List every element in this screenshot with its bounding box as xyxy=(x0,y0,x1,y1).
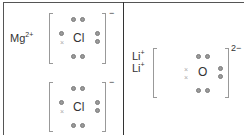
electron-dot xyxy=(80,54,85,59)
electron-dot xyxy=(71,17,76,22)
right-panel-li2o: Li+ Li+ 2− O × × xyxy=(124,3,244,135)
electron-dot xyxy=(95,100,100,105)
electron-dot xyxy=(59,31,64,36)
electron-dot xyxy=(59,100,64,105)
li-symbol: Li xyxy=(132,62,141,74)
left-bracket xyxy=(153,48,157,98)
right-bracket xyxy=(225,48,229,98)
electron-dot xyxy=(80,86,85,91)
electron-dot xyxy=(71,54,76,59)
left-bracket xyxy=(49,82,53,132)
mg-symbol: Mg xyxy=(10,32,25,44)
electron-dot xyxy=(196,88,201,93)
oxide-charge: 2− xyxy=(231,44,241,53)
electron-dot xyxy=(71,123,76,128)
right-bracket xyxy=(102,13,106,64)
electron-dot xyxy=(196,54,201,59)
electron-dot xyxy=(80,123,85,128)
electron-dot xyxy=(95,108,100,113)
mg-charge: 2+ xyxy=(25,31,33,38)
li-charge: + xyxy=(141,49,145,56)
electron-cross: × xyxy=(60,108,64,115)
oxygen-symbol: O xyxy=(198,66,207,78)
right-bracket xyxy=(102,82,106,132)
li-symbol: Li xyxy=(132,50,141,62)
chloride-charge: − xyxy=(109,9,114,18)
electron-dot xyxy=(205,88,210,93)
electron-cross: × xyxy=(60,39,64,46)
left-bracket xyxy=(49,13,53,64)
electron-dot xyxy=(218,74,223,79)
chlorine-symbol: Cl xyxy=(73,101,84,113)
electron-dot xyxy=(95,39,100,44)
chloride-charge: − xyxy=(109,78,114,87)
mg-ion-label: Mg2+ xyxy=(10,33,33,44)
electron-dot xyxy=(95,31,100,36)
electron-dot xyxy=(205,54,210,59)
electron-cross: × xyxy=(184,66,188,73)
electron-dot xyxy=(71,86,76,91)
left-panel-mgcl2: Mg2+ − Cl × − Cl × xyxy=(4,3,123,135)
li-charge: + xyxy=(141,61,145,68)
electron-cross: × xyxy=(184,74,188,81)
electron-dot xyxy=(218,66,223,71)
electron-dot xyxy=(80,17,85,22)
li-ion-label-2: Li+ xyxy=(132,63,145,74)
chlorine-symbol: Cl xyxy=(73,32,84,44)
